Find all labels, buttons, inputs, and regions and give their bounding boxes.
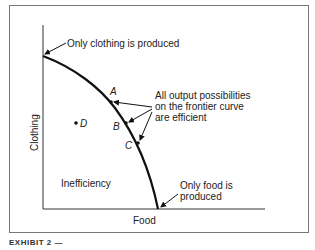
point-d-label: D [80, 118, 87, 129]
production-possibilities-diagram: A B C D Only clothing is produced All ou… [0, 0, 315, 250]
point-d [74, 121, 78, 125]
y-axis-label: Clothing [29, 114, 40, 151]
point-c [136, 141, 140, 145]
arrow-icon [140, 112, 152, 140]
only-clothing-annotation: Only clothing is produced [67, 38, 179, 49]
inefficiency-label: Inefficiency [61, 178, 111, 189]
efficient-annotation-line3: are efficient [155, 112, 207, 123]
efficient-annotation-line2: on the frontier curve [155, 101, 244, 112]
x-axis-label: Food [133, 215, 156, 226]
efficient-annotation-line1: All output possibilities [155, 90, 251, 101]
arrow-icon [114, 102, 152, 107]
arrow-icon [45, 43, 66, 54]
only-food-annotation-line1: Only food is [180, 180, 233, 191]
point-a-label: A [109, 86, 117, 97]
only-food-annotation-line2: produced [180, 191, 222, 202]
point-c-label: C [125, 140, 133, 151]
figure-caption: EXHIBIT 2 — [9, 238, 63, 247]
point-b [124, 121, 128, 125]
point-a [109, 100, 113, 104]
point-b-label: B [113, 121, 120, 132]
arrow-icon [161, 194, 178, 207]
